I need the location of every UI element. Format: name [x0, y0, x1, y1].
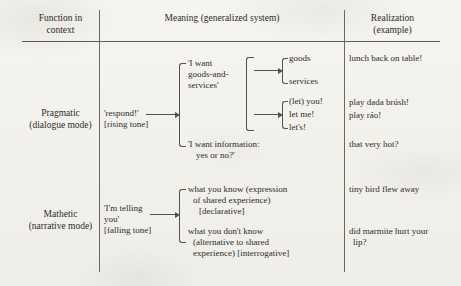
goods-label-line3: services' [188, 80, 248, 91]
example-play-dada-brush: play dada brúsh! [349, 97, 444, 108]
header-function-line2: context [22, 25, 99, 37]
example-that-very-hot: that very hot? [349, 139, 444, 150]
marmite-line1: did marmite hurt your [349, 226, 447, 237]
term-goods: goods [289, 53, 311, 64]
header-function-line1: Function in [22, 13, 99, 25]
goods-label-line2: goods-and- [188, 69, 248, 80]
column-divider-1 [99, 10, 100, 272]
mathetic-gloss-line2: you' [104, 214, 176, 225]
header-realization-line2: (example) [345, 25, 440, 37]
mathetic-label-line1: Mathetic [22, 209, 99, 221]
unknown-label-line1: what you don't know [188, 226, 343, 237]
row-pragmatic-gloss: 'respond!' [rising tone] [104, 108, 174, 130]
term-lets: let's! [289, 122, 306, 133]
pragmatic-label-line1: Pragmatic [22, 108, 99, 120]
let-bracket [282, 101, 288, 129]
mathetic-gloss-line1: 'I'm telling [104, 203, 176, 214]
column-divider-2 [344, 10, 345, 272]
header-realization-line1: Realization [345, 13, 440, 25]
mathetic-gloss-line3: [falling tone] [104, 225, 176, 236]
row-mathetic-gloss: 'I'm telling you' [falling tone] [104, 203, 176, 236]
header-realization: Realization (example) [345, 13, 440, 36]
example-lunch-back-on-table: lunch back on table! [349, 53, 444, 64]
row-mathetic-function: Mathetic (narrative mode) [22, 209, 99, 232]
information-label-line1: 'I want information: [188, 139, 308, 150]
goods-secondary-bracket [246, 57, 254, 131]
known-label-line1: what you know (expression [188, 184, 338, 195]
pragmatic-option-goods-label: 'I want goods-and- services' [188, 58, 248, 91]
row-pragmatic-function: Pragmatic (dialogue mode) [22, 108, 99, 131]
mathetic-option-unknown-label: what you don't know (alternative to shar… [188, 226, 343, 259]
unknown-label-line2: (alternative to shared [188, 237, 343, 248]
example-tiny-bird-flew-away: tiny bird flew away [349, 184, 444, 195]
diagram-sheet: Function in context Meaning (generalized… [0, 0, 461, 286]
pragmatic-option-information-label: 'I want information: yes or no?' [188, 139, 308, 161]
header-meaning-line1: Meaning (generalized system) [100, 13, 344, 25]
mathetic-primary-bracket [179, 189, 186, 243]
term-let-you: (let) you! [289, 96, 323, 107]
mathetic-entry-arrow [150, 214, 179, 215]
example-did-marmite-hurt-your-lip: did marmite hurt your lip? [349, 226, 447, 248]
let-arrow [254, 114, 282, 115]
pragmatic-gloss-line2: [rising tone] [104, 119, 174, 130]
goods-label-line1: 'I want [188, 58, 248, 69]
term-let-me: let me! [289, 109, 314, 120]
marmite-line2: lip? [349, 237, 447, 248]
goods-services-arrow [254, 70, 282, 71]
pragmatic-primary-bracket [179, 63, 186, 147]
header-meaning: Meaning (generalized system) [100, 13, 344, 25]
pragmatic-label-line2: (dialogue mode) [22, 120, 99, 132]
header-function-in-context: Function in context [22, 13, 99, 36]
information-label-line2: yes or no?' [188, 150, 308, 161]
pragmatic-entry-arrow [146, 114, 179, 115]
goods-services-bracket [282, 58, 288, 84]
example-play-rao: play ráo! [349, 110, 444, 121]
mathetic-label-line2: (narrative mode) [22, 221, 99, 233]
unknown-label-line3: experience) [interrogative] [188, 248, 343, 259]
header-bottom-rule [22, 41, 440, 42]
known-label-line3: [declarative] [188, 206, 338, 217]
term-services: services [289, 76, 318, 87]
mathetic-option-known-label: what you know (expression of shared expe… [188, 184, 338, 217]
known-label-line2: of shared experience) [188, 195, 338, 206]
